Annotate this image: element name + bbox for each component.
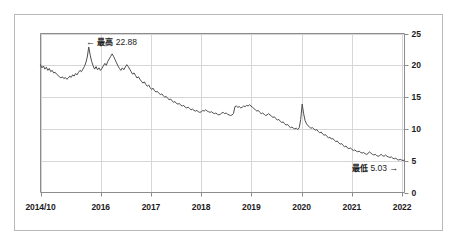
chart-plot-area [0,0,457,245]
annotation-low-number: 5.03 [370,163,387,173]
data-series-line [41,47,405,161]
x-tick-label: 2017 [142,202,161,212]
y-tick-label: 0 [412,188,417,198]
chart-figure: 0510152025 2014/102016201720182019202020… [0,0,457,245]
y-tick-label: 5 [412,156,417,166]
y-tick-label: 25 [412,29,421,39]
x-tick-label: 2016 [91,202,110,212]
y-tick-label: 20 [412,60,421,70]
y-tick-label: 15 [412,92,421,102]
annotation-low-arrow-icon: → [389,163,398,173]
annotation-high-number: 22.88 [116,37,137,47]
x-tick-label: 2020 [292,202,311,212]
x-tick-label: 2014/10 [25,202,55,212]
x-tick-label: 2019 [242,202,261,212]
annotation-low-value: 最低 5.03 → [352,162,398,173]
annotation-high-label: 最高 [97,38,113,47]
annotation-low-label: 最低 [352,164,368,173]
y-tick-label: 10 [412,124,421,134]
x-tick-label: 2018 [192,202,211,212]
annotation-high-arrow-icon: ← [86,37,95,47]
annotation-high-value: ← 最高 22.88 [86,36,137,47]
x-tick-label: 2022 [393,202,412,212]
x-tick-label: 2021 [343,202,362,212]
